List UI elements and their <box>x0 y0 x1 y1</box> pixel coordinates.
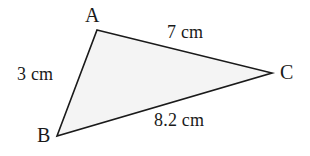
side-length-label-ab: 3 cm <box>17 65 53 83</box>
vertex-label-a: A <box>85 5 100 25</box>
vertex-label-b: B <box>37 125 51 145</box>
side-length-label-ac: 7 cm <box>167 23 203 41</box>
side-length-label-bc: 8.2 cm <box>154 111 204 129</box>
vertex-label-c: C <box>280 62 294 82</box>
triangle-figure: A B C 3 cm 7 cm 8.2 cm <box>0 0 310 156</box>
